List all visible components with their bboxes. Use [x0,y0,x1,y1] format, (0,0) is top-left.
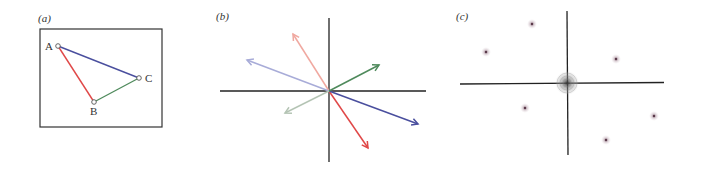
triangle-edges [58,46,139,102]
scatter-point [520,103,530,113]
light-green-vector [285,91,329,113]
panel-c-label: (c) [456,10,469,23]
scatter-point [649,111,659,121]
scatter-points [481,19,659,145]
panel-b: (b) [216,10,426,162]
node-c [137,76,142,81]
node-b [92,100,97,105]
scatter-point [481,47,491,57]
light-blue-vector [247,59,329,91]
edge-ac [58,46,139,78]
light-red-vector [293,34,329,91]
node-a [56,44,61,49]
node-a-label: A [45,40,53,52]
figure: (a) ABC (b) (c) [0,0,702,171]
panel-c: (c) [456,10,664,155]
scatter-point [611,54,621,64]
panel-b-label: (b) [216,10,229,23]
panel-b-axes [220,18,426,162]
node-b-label: B [90,105,97,117]
node-c-label: C [145,72,152,84]
panel-a: (a) ABC [38,12,162,127]
scatter-point [527,19,537,29]
edge-ab [58,46,94,102]
blue-vector [329,91,418,125]
green-vector [329,65,379,91]
edge-bc [94,78,139,102]
panel-a-label: (a) [38,12,51,25]
center-blob [555,71,579,95]
scatter-point [601,135,611,145]
red-vector [329,91,368,148]
